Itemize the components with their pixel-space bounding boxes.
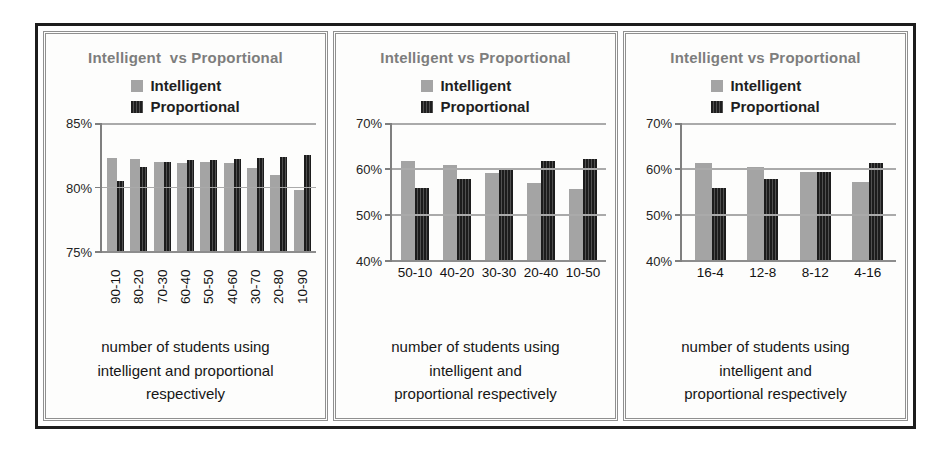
x-tick-label: 10-90 — [296, 254, 310, 304]
bar-proportional-12-8 — [764, 179, 778, 261]
axis-caption: number of students using intelligent and… — [626, 335, 905, 405]
bar-groups — [682, 123, 896, 261]
chart-panel-1: Intelligent vs Proportional Intelligent … — [43, 31, 328, 421]
x-tick-label-cell: 20-40 — [520, 265, 562, 280]
x-tick-label: 20-40 — [524, 265, 559, 280]
bar-proportional-60-40 — [187, 160, 194, 252]
x-tick-label-cell: 16-4 — [684, 265, 737, 280]
gridline — [682, 214, 896, 216]
y-tick-label: 50% — [646, 208, 672, 223]
legend-item-intelligent: Intelligent — [421, 77, 529, 94]
bar-proportional-30-70 — [257, 158, 264, 252]
bar-group-40-20 — [436, 165, 478, 261]
proportional-swatch-icon — [711, 101, 723, 113]
bar-intelligent-8-12 — [800, 172, 817, 261]
bar-intelligent-30-30 — [485, 173, 499, 261]
axis-caption: number of students using intelligent and… — [336, 335, 615, 405]
plot-grid — [680, 123, 896, 261]
x-axis-labels: 90-1080-2070-3060-4050-5040-6030-7020-80… — [102, 254, 316, 304]
intelligent-swatch-icon — [711, 80, 723, 92]
x-tick-label-cell: 12-8 — [737, 265, 790, 280]
y-tick-label: 60% — [646, 162, 672, 177]
intelligent-swatch-icon — [421, 80, 433, 92]
legend-label-intelligent: Intelligent — [150, 77, 221, 94]
bar-group-80-20 — [127, 159, 150, 252]
bar-intelligent-20-40 — [527, 183, 541, 261]
x-tick-label: 20-80 — [272, 254, 286, 304]
bar-group-40-60 — [221, 159, 244, 252]
plot-box: 16-412-88-124-16 — [680, 123, 896, 280]
x-tick-label-cell: 10-50 — [562, 265, 604, 280]
x-tick-label: 50-10 — [398, 265, 433, 280]
y-tick-label: 80% — [66, 181, 92, 196]
bar-proportional-40-20 — [457, 179, 471, 261]
axis-tick — [385, 168, 392, 170]
legend: Intelligent Proportional — [711, 77, 819, 115]
x-tick-label-cell: 90-10 — [104, 254, 127, 304]
gridline — [102, 123, 316, 125]
bar-proportional-50-50 — [210, 160, 217, 252]
plot-box: 50-1040-2030-3020-4010-50 — [390, 123, 606, 280]
x-tick-label-cell: 20-80 — [267, 254, 290, 304]
bar-groups — [392, 123, 606, 261]
bar-proportional-4-16 — [869, 163, 883, 261]
bar-group-20-40 — [520, 161, 562, 261]
x-tick-label-cell: 60-40 — [174, 254, 197, 304]
x-tick-label-cell: 50-50 — [197, 254, 220, 304]
plot-box: 90-1080-2070-3060-4050-5040-6030-7020-80… — [100, 123, 316, 304]
legend-item-intelligent: Intelligent — [711, 77, 819, 94]
bar-intelligent-30-70 — [247, 168, 257, 252]
legend-label-proportional: Proportional — [730, 98, 819, 115]
chart-panel-3: Intelligent vs Proportional Intelligent … — [623, 31, 908, 421]
gridline — [682, 260, 896, 262]
x-tick-label: 30-70 — [249, 254, 263, 304]
plot-area: 70%60%50%40% 50-1040-2030-3020-4010-50 — [346, 123, 606, 280]
proportional-swatch-icon — [131, 101, 143, 113]
bar-intelligent-4-16 — [852, 182, 869, 261]
bar-intelligent-90-10 — [107, 158, 117, 252]
axis-tick — [675, 168, 682, 170]
y-tick-label: 70% — [356, 116, 382, 131]
y-axis: 70%60%50%40% — [636, 123, 680, 280]
gridline — [682, 123, 896, 125]
x-tick-label: 12-8 — [749, 265, 776, 280]
bar-group-4-16 — [842, 163, 895, 261]
x-tick-label-cell: 10-90 — [291, 254, 314, 304]
axis-tick — [95, 187, 102, 189]
plot-area: 70%60%50%40% 16-412-88-124-16 — [636, 123, 896, 280]
bar-intelligent-16-4 — [695, 163, 712, 261]
gridline — [392, 123, 606, 125]
axis-tick — [385, 260, 392, 262]
x-tick-label: 4-16 — [854, 265, 881, 280]
bar-group-90-10 — [104, 158, 127, 252]
x-tick-label-cell: 30-30 — [478, 265, 520, 280]
axis-tick — [385, 214, 392, 216]
bar-proportional-50-10 — [415, 188, 429, 261]
x-tick-label-cell: 4-16 — [842, 265, 895, 280]
x-tick-label: 8-12 — [802, 265, 829, 280]
gridline — [102, 187, 316, 189]
bar-group-8-12 — [789, 172, 842, 261]
x-axis-labels: 50-1040-2030-3020-4010-50 — [392, 265, 606, 280]
legend-label-intelligent: Intelligent — [440, 77, 511, 94]
legend-label-proportional: Proportional — [440, 98, 529, 115]
caption-line: proportional respectively — [346, 382, 605, 405]
bar-group-10-50 — [562, 159, 604, 261]
bar-proportional-40-60 — [234, 159, 241, 252]
legend-item-intelligent: Intelligent — [131, 77, 239, 94]
axis-tick — [95, 123, 102, 125]
x-tick-label: 70-30 — [156, 254, 170, 304]
bar-intelligent-10-50 — [569, 189, 583, 261]
bar-group-16-4 — [684, 163, 737, 261]
bar-group-50-50 — [197, 160, 220, 252]
chart-title: Intelligent vs Proportional — [336, 49, 615, 66]
gridline — [392, 214, 606, 216]
plot-grid — [100, 123, 316, 252]
bar-intelligent-60-40 — [177, 163, 187, 252]
bar-proportional-90-10 — [117, 181, 124, 252]
legend-label-proportional: Proportional — [150, 98, 239, 115]
bar-intelligent-50-10 — [401, 161, 415, 261]
bar-proportional-16-4 — [712, 188, 726, 261]
proportional-swatch-icon — [421, 101, 433, 113]
caption-line: intelligent and proportional — [56, 359, 315, 382]
